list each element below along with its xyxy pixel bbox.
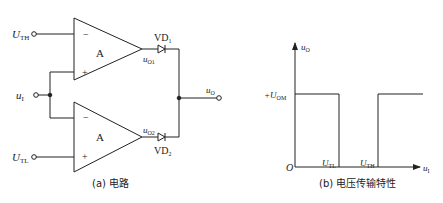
svg-text:VD1: VD1 [154,32,171,44]
svg-text:−: − [83,29,89,40]
svg-text:uO2: uO2 [143,125,155,136]
terminal-utl [32,155,37,160]
svg-text:UTL: UTL [322,158,336,169]
window-comparator-figure: UTH uI UTL A − + uO1 A − + uO2 VD1 VD2 u… [0,0,443,203]
circuit-caption: (a) 电路 [92,177,129,189]
svg-text:O: O [286,162,293,173]
diode-vd2 [158,133,165,141]
opamp-bottom-label: A [96,131,104,143]
terminal-uth [32,32,37,37]
circuit-diagram [32,18,222,172]
terminal-ui [34,93,39,98]
svg-text:uO: uO [206,85,216,96]
svg-text:VD2: VD2 [154,145,171,157]
svg-text:UTL: UTL [12,151,29,165]
transfer-curve [295,94,339,167]
svg-text:+UOM: +UOM [264,90,287,101]
transfer-chart [295,43,423,167]
opamp-top-label: A [96,47,104,59]
svg-text:uO: uO [301,42,311,53]
diode-vd1 [158,45,165,53]
svg-text:UTH: UTH [12,28,29,42]
svg-text:uI: uI [423,163,430,174]
svg-text:uI: uI [16,89,25,103]
chart-caption: (b) 电压传输特性 [319,177,396,189]
svg-text:uO1: uO1 [143,54,155,65]
terminal-uo [217,96,222,101]
svg-text:+: + [82,151,88,162]
svg-text:+: + [82,67,88,78]
svg-text:−: − [83,112,89,123]
svg-text:UTH: UTH [360,158,375,169]
